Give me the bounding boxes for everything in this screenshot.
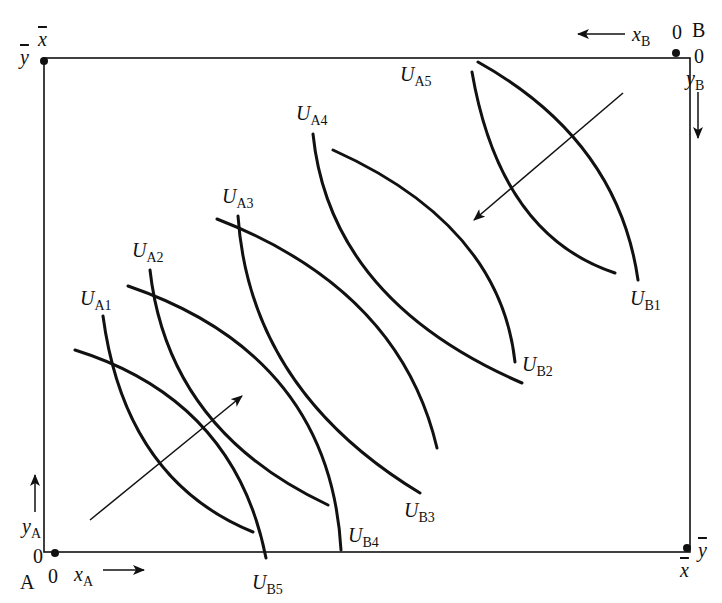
label-UA4: UA4 [296, 103, 328, 123]
arrow-A-preference-icon [90, 396, 242, 520]
origin-dot-A [51, 549, 59, 557]
origin-A-label: A [20, 572, 34, 592]
label-UA3: UA3 [222, 186, 254, 206]
yB-label: yB [686, 68, 704, 88]
xbar-top-left: x [38, 29, 47, 49]
label-UB2: UB2 [522, 354, 553, 374]
xA-label: xA [74, 564, 93, 584]
origin-dot-top-left [40, 57, 48, 65]
curve-UA3 [238, 216, 420, 493]
origin-B-label: B [692, 20, 705, 40]
ybar-bottom-right: y [698, 540, 707, 560]
label-UB4: UB4 [348, 525, 379, 545]
label-UA2: UA2 [132, 240, 164, 260]
yA-zero: 0 [33, 546, 43, 566]
curve-UA5 [472, 72, 615, 273]
yB-zero: 0 [694, 46, 704, 66]
label-UB1: UB1 [630, 288, 661, 308]
indifference-curves-B [75, 62, 638, 558]
label-UA5: UA5 [400, 64, 432, 84]
label-UA1: UA1 [80, 288, 112, 308]
curve-UB3 [217, 219, 437, 448]
xB-zero: 0 [672, 22, 682, 42]
xbar-bottom-right: x [680, 560, 689, 580]
curve-UB2 [333, 150, 515, 362]
xB-label: xB [632, 24, 650, 44]
ybar-top-left: y [20, 47, 29, 67]
label-UB3: UB3 [404, 500, 435, 520]
origin-dot-top-right [672, 49, 680, 57]
yA-label: yA [22, 516, 41, 536]
xA-zero: 0 [48, 566, 58, 586]
label-UB5: UB5 [252, 572, 283, 592]
origin-dot-bottom-right [683, 544, 691, 552]
indifference-curves-A [103, 72, 615, 532]
curve-UA4 [313, 134, 522, 383]
curve-UA1 [103, 316, 253, 532]
